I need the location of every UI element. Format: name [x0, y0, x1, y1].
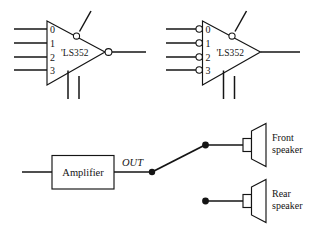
mux-right: 0 1 2 3 'LS352: [166, 11, 300, 99]
mux-left-pin-label-1: 1: [50, 38, 55, 49]
mux-left-select-bubble-icon: [73, 33, 79, 39]
mux-left-chip-name: 'LS352: [61, 48, 89, 58]
rear-speaker-horn-icon: [252, 180, 267, 223]
mux-right-select-wire: [235, 11, 247, 32]
rear-speaker-driver: [243, 195, 252, 208]
mux-left-select-wire: [80, 11, 92, 32]
mux-right-chip-name: 'LS352: [217, 48, 245, 58]
mux-right-input-bubble-icon-1: [196, 40, 202, 46]
mux-left-pin-label-3: 3: [50, 65, 55, 76]
mux-left-pin-label-0: 0: [50, 24, 55, 35]
mux-left: 0 1 2 3 'LS352: [14, 11, 146, 99]
amplifier-output-label: OUT: [122, 157, 144, 168]
rear-speaker-label-line1: Rear: [272, 188, 292, 199]
mux-right-input-bubble-icon-0: [196, 26, 202, 32]
front-speaker-horn-icon: [252, 124, 267, 167]
front-speaker-label-line2: speaker: [272, 144, 303, 155]
mux-right-input-bubble-icon-2: [196, 54, 202, 60]
mux-right-pin-label-3: 3: [206, 65, 211, 76]
mux-right-pin-label-1: 1: [206, 38, 211, 49]
mux-left-output-bubble-icon: [105, 49, 112, 56]
logic-diagram: 0 1 2 3 'LS352: [0, 0, 312, 229]
rear-speaker-label-line2: speaker: [272, 200, 303, 211]
amplifier-label: Amplifier: [62, 167, 104, 178]
figure-canvas: 0 1 2 3 'LS352: [0, 0, 312, 229]
audio-output-circuit: Amplifier OUT Front speaker: [22, 124, 303, 223]
mux-right-pin-label-0: 0: [206, 24, 211, 35]
switch-arm[interactable]: [152, 145, 205, 172]
mux-right-input-bubble-icon-3: [196, 67, 202, 73]
mux-right-select-bubble-icon: [229, 33, 235, 39]
front-speaker-driver: [243, 139, 252, 152]
front-speaker-label-line1: Front: [272, 132, 294, 143]
mux-right-pin-label-2: 2: [206, 52, 211, 63]
mux-left-pin-label-2: 2: [50, 52, 55, 63]
